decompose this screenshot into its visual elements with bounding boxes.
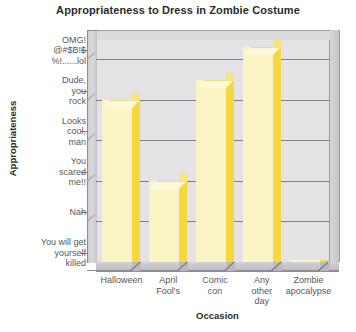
y-axis-title: Appropriateness [7, 79, 18, 199]
x-axis-title: Occasion [96, 310, 339, 321]
x-axis-tick-label-line: day [230, 296, 294, 307]
bar [102, 100, 132, 262]
y-axis-tick-label: Youscaredme!! [12, 156, 86, 188]
y-axis-tick [81, 131, 87, 132]
gridline [96, 59, 330, 60]
bar-face [243, 47, 273, 262]
y-axis-tick-label-line: you [12, 86, 86, 97]
y-axis-tick-label: You will getyourselfkilled [12, 237, 86, 269]
y-axis-tick-label-line: @#$B!$ [12, 45, 86, 56]
y-axis-tick-label: Lookscool,man [12, 116, 86, 148]
plot-top-panel [87, 30, 330, 40]
y-axis-tick-label-line: yourself [12, 248, 86, 259]
y-axis-tick-label: OMG!@#$B!$%!......lol [12, 35, 86, 67]
plot-area [96, 39, 330, 262]
bar-face [102, 100, 132, 262]
bar-side [226, 80, 234, 262]
bar-top-side [179, 174, 187, 182]
y-axis-tick-label-line: Dude, [12, 75, 86, 86]
bar-face [149, 181, 179, 262]
plot-floor-edge [87, 270, 339, 271]
bar-chart: Appropriateness to Dress in Zombie Costu… [0, 0, 356, 332]
bar-side [132, 100, 140, 262]
y-axis-tick-label-line: scared [12, 167, 86, 178]
bar-side [273, 47, 281, 262]
y-axis-tick-label-line: killed [12, 258, 86, 269]
bar [290, 260, 320, 262]
bar-top-side [226, 73, 234, 81]
y-axis-tick-label-line: me!! [12, 177, 86, 188]
y-axis-tick-label-line: You [12, 156, 86, 167]
bar [149, 181, 179, 262]
y-axis-wall [87, 30, 97, 263]
y-axis-tick-label: Dude,yourock [12, 75, 86, 107]
y-axis-tick-label-line: You will get [12, 237, 86, 248]
bar-face [196, 80, 226, 262]
x-axis-tick-label: Zombieapocalypse [277, 275, 341, 296]
y-axis-tick-label-line: Nah [12, 207, 86, 218]
y-axis-tick-label-line: OMG! [12, 35, 86, 46]
bar-side [179, 181, 187, 262]
y-axis-tick-label-line: cool, [12, 126, 86, 137]
y-axis-tick [81, 172, 87, 173]
y-axis-tick [81, 212, 87, 213]
y-axis-tick-label-line: Looks [12, 116, 86, 127]
y-axis-tick-label-line: rock [12, 96, 86, 107]
y-axis-tick [81, 50, 87, 51]
bar [196, 80, 226, 262]
x-axis-tick-label-line: Zombie [277, 275, 341, 286]
x-axis-tick-label-line: apocalypse [277, 286, 341, 297]
bar [243, 47, 273, 262]
bar-top-side [273, 40, 281, 48]
bar-top-side [132, 93, 140, 101]
y-axis-tick-label-line: man [12, 137, 86, 148]
plot-right-wall [330, 30, 340, 262]
y-axis-tick-label-line: %!......lol [12, 56, 86, 67]
bar-face [290, 260, 320, 262]
y-axis-tick [81, 253, 87, 254]
y-axis-tick [81, 91, 87, 92]
y-axis-tick-label: Nah [12, 207, 86, 218]
